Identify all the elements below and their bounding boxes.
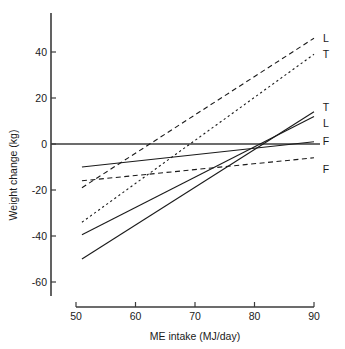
y-tick-label-20: 20 <box>35 92 47 104</box>
x-axis-tick-labels: 50 60 70 80 90 <box>70 310 320 322</box>
y-tick-label-neg60: -60 <box>32 276 47 288</box>
series-label-L-dashed: L <box>323 32 329 44</box>
x-tick-label-80: 80 <box>249 310 261 322</box>
series-label-T-dashed: T <box>323 48 330 60</box>
y-axis-title: Weight change (kg) <box>7 130 19 221</box>
series-label-T-solid: T <box>323 101 330 113</box>
chart-figure: 40 20 0 -20 -40 -60 50 60 70 80 90 ME in… <box>0 0 345 349</box>
y-tick-label-40: 40 <box>35 46 47 58</box>
series-label-layer: LTTLFF <box>323 32 330 175</box>
x-axis-title: ME intake (MJ/day) <box>150 330 240 342</box>
x-tick-label-50: 50 <box>70 310 82 322</box>
y-tick-label-neg20: -20 <box>32 184 47 196</box>
x-tick-label-60: 60 <box>130 310 142 322</box>
series-label-F-dashed: F <box>323 163 329 175</box>
series-line-T-dashed <box>82 54 314 222</box>
y-tick-label-neg40: -40 <box>32 230 47 242</box>
y-tick-label-0: 0 <box>41 138 47 150</box>
series-line-F-dashed <box>82 158 314 181</box>
x-tick-label-90: 90 <box>308 310 320 322</box>
series-line-F-solid <box>82 142 314 167</box>
series-label-L-solid: L <box>323 117 329 129</box>
series-line-L-solid <box>82 116 314 234</box>
weight-change-line-chart: 40 20 0 -20 -40 -60 50 60 70 80 90 ME in… <box>0 0 345 349</box>
y-axis-tick-labels: 40 20 0 -20 -40 -60 <box>32 46 47 288</box>
series-label-F-solid: F <box>323 135 329 147</box>
x-tick-label-70: 70 <box>189 310 201 322</box>
series-line-L-dashed <box>82 38 314 188</box>
series-layer <box>82 38 314 259</box>
